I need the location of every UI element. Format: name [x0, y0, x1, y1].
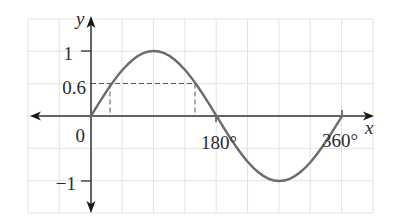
origin-label: 0 [76, 125, 86, 146]
y-tick-label-minus-1: −1 [56, 173, 76, 194]
y-tick-label-1: 1 [64, 43, 74, 64]
x-tick-label-180: 180° [201, 132, 237, 153]
x-axis-label: x [364, 117, 374, 138]
y-tick-label-0-6: 0.6 [62, 77, 86, 98]
sine-chart: y x 1 0.6 0 −1 180° 360° [0, 0, 396, 224]
x-tick-label-360: 360° [322, 130, 358, 151]
labels: y x 1 0.6 0 −1 180° 360° [56, 8, 374, 194]
guide-0-6 [91, 84, 195, 117]
y-axis-label: y [74, 8, 85, 29]
axes [30, 16, 374, 213]
